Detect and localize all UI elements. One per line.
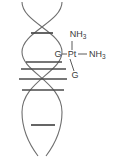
- cisplatin-dna-figure: NH3 Pt NH3 G G: [0, 0, 118, 157]
- guanine-upper-label: G: [54, 49, 61, 59]
- figure-canvas: NH3 Pt NH3 G G: [0, 0, 118, 157]
- platinum-label: Pt: [68, 49, 77, 59]
- guanine-lower-label: G: [71, 70, 78, 80]
